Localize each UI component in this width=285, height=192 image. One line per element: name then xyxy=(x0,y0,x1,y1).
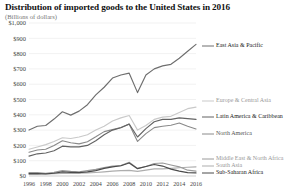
x-axis-tick-label: 1996 xyxy=(23,181,35,187)
y-axis-tick-label: $700 xyxy=(13,65,26,72)
y-axis-tick-label: $800 xyxy=(13,50,26,57)
y-axis-tick-label: $500 xyxy=(13,96,26,103)
y-axis-tick-label: $200 xyxy=(13,142,26,149)
y-axis-ticks: $0$100$200$300$400$500$600$700$800$900$1… xyxy=(8,19,26,179)
y-axis-tick-label: $1,000 xyxy=(8,19,26,26)
x-axis-tick-label: 2012 xyxy=(157,181,169,187)
x-axis-tick-label: 2006 xyxy=(106,181,118,187)
series-lines xyxy=(29,44,196,174)
y-axis-tick-label: $400 xyxy=(13,111,26,118)
x-axis-tick-label: 1998 xyxy=(40,181,52,187)
line-chart-svg: $0$100$200$300$400$500$600$700$800$900$1… xyxy=(0,0,285,192)
series-labels: East Asia & PacificEurope & Central Asia… xyxy=(202,42,284,175)
series-line xyxy=(29,118,196,156)
chart-container: Distribution of imported goods to the Un… xyxy=(0,0,285,192)
series-line xyxy=(29,123,196,152)
series-label: North America xyxy=(216,130,252,136)
x-axis-tick-label: 2002 xyxy=(73,181,85,187)
y-axis-tick-label: $300 xyxy=(13,126,26,133)
x-axis-tick-label: 2014 xyxy=(173,181,185,187)
y-axis-tick-label: $100 xyxy=(13,157,26,164)
y-axis-tick-label: $600 xyxy=(13,80,26,87)
series-label: Sub-Saharan Africa xyxy=(216,169,263,175)
series-label: South Asia xyxy=(216,162,243,168)
series-label: Europe & Central Asia xyxy=(216,97,271,103)
series-label: East Asia & Pacific xyxy=(216,42,263,48)
series-label: Latin America & Caribbean xyxy=(216,113,283,119)
x-axis-tick-label: 2000 xyxy=(56,181,68,187)
series-line xyxy=(29,44,196,130)
y-axis-tick-label: $900 xyxy=(13,35,26,42)
x-axis-ticks: 1996199820002002200420062008201020122014… xyxy=(23,181,202,187)
x-axis-tick-label: 2004 xyxy=(90,181,102,187)
series-line xyxy=(29,107,196,149)
x-axis-tick-label: 2016 xyxy=(190,181,202,187)
plot-area: $0$100$200$300$400$500$600$700$800$900$1… xyxy=(0,0,285,192)
x-axis-tick-label: 2008 xyxy=(123,181,135,187)
gridlines xyxy=(29,23,196,176)
series-label: Middle East & North Africa xyxy=(216,155,284,161)
y-axis-tick-label: $0 xyxy=(20,172,26,179)
x-axis-tick-label: 2010 xyxy=(140,181,152,187)
